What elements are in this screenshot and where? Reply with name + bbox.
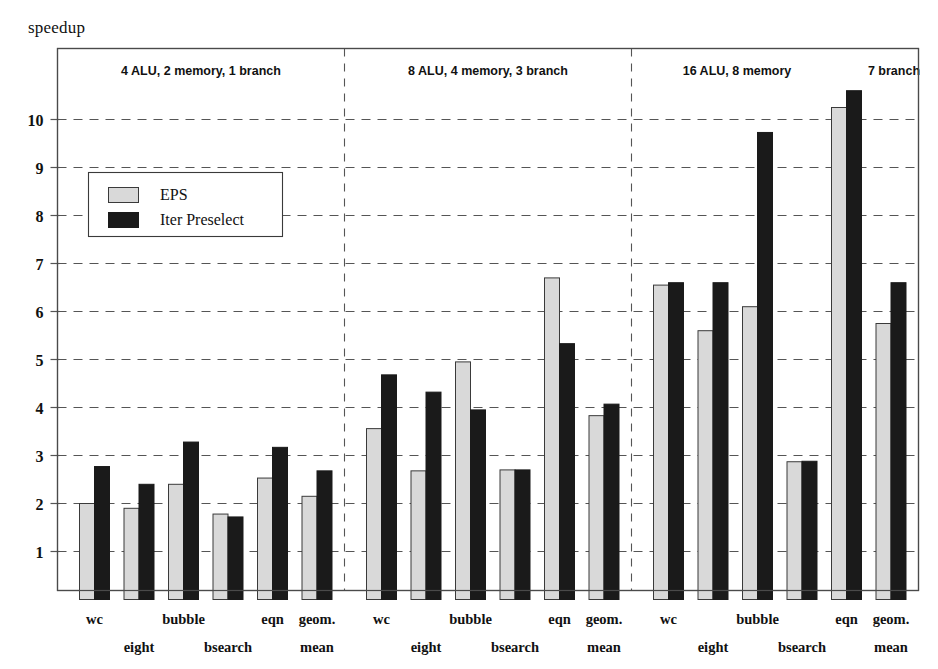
cat-label-p3-wc: wc — [660, 611, 677, 627]
y-tick-label-8: 8 — [36, 208, 44, 225]
bar-iter-p1-eight — [139, 484, 154, 599]
bar-iter-p1-eqn — [273, 447, 288, 599]
y-tick-label-10: 10 — [28, 112, 44, 129]
bar-eps-p3-eight — [698, 331, 713, 600]
legend-swatch-eps — [109, 188, 139, 203]
bar-eps-p2-bsearch — [500, 470, 515, 600]
cat-label-p2-mean: mean — [587, 639, 621, 655]
bar-iter-p1-bsearch — [228, 517, 243, 600]
bar-eps-p2-eqn — [545, 278, 560, 600]
bar-eps-p3-eqn — [832, 108, 847, 600]
bar-iter-p1-bubble — [184, 442, 199, 599]
bar-eps-p3-geommean — [876, 324, 891, 600]
bar-iter-p2-geommean — [604, 404, 619, 599]
bar-eps-p1-bsearch — [213, 514, 228, 599]
y-tick-label-7: 7 — [36, 256, 44, 273]
legend-label-iter-preselect: Iter Preselect — [160, 211, 245, 228]
bar-iter-p1-wc — [95, 467, 110, 600]
cat-label-p2-eqn: eqn — [548, 611, 571, 627]
cat-label-p1-mean: mean — [300, 639, 334, 655]
cat-label-p2-geom: geom. — [586, 611, 623, 627]
cat-label-p3-eqn: eqn — [835, 611, 858, 627]
cat-label-p3-eight: eight — [698, 639, 729, 655]
y-tick-label-1: 1 — [36, 544, 44, 561]
cat-label-p1-eqn: eqn — [261, 611, 284, 627]
bar-iter-p1-geommean — [317, 471, 332, 600]
bar-iter-p2-bsearch — [515, 470, 530, 600]
cat-label-p1-wc: wc — [86, 611, 103, 627]
x-axis-category-labels: wceightbubblebsearcheqngeom.meanwceightb… — [86, 611, 909, 655]
y-tick-label-2: 2 — [36, 496, 44, 513]
panel-label-3-part-1: 16 ALU, 8 memory — [683, 64, 792, 78]
bar-iter-p3-bsearch — [802, 461, 817, 599]
panel-label-2: 8 ALU, 4 memory, 3 branch — [408, 64, 568, 78]
cat-label-p1-eight: eight — [124, 639, 155, 655]
cat-label-p2-bsearch: bsearch — [491, 639, 539, 655]
bar-iter-p2-eqn — [560, 344, 575, 600]
bar-eps-p1-bubble — [169, 484, 184, 599]
cat-label-p3-geom: geom. — [873, 611, 910, 627]
y-tick-label-4: 4 — [36, 400, 44, 417]
bar-iter-p3-eight — [713, 283, 728, 600]
cat-label-p3-bsearch: bsearch — [778, 639, 826, 655]
bar-eps-p3-bsearch — [787, 462, 802, 600]
y-tick-label-6: 6 — [36, 304, 44, 321]
bar-iter-p3-geommean — [891, 283, 906, 600]
legend-swatch-iter-preselect — [109, 213, 139, 228]
bar-iter-p3-wc — [669, 283, 684, 600]
panel-label-3-part-2: 7 branch — [868, 64, 920, 78]
bar-iter-p2-bubble — [471, 410, 486, 600]
cat-label-p2-wc: wc — [373, 611, 390, 627]
bar-eps-p2-geommean — [589, 416, 604, 600]
cat-label-p3-bubble: bubble — [736, 611, 779, 627]
cat-label-p3-mean: mean — [874, 639, 908, 655]
cat-label-p2-bubble: bubble — [449, 611, 492, 627]
cat-label-p1-geom: geom. — [299, 611, 336, 627]
bar-eps-p1-geommean — [302, 496, 317, 599]
bar-eps-p3-wc — [654, 285, 669, 599]
legend-label-eps: EPS — [160, 186, 188, 203]
bar-iter-p3-eqn — [847, 91, 862, 600]
bar-iter-p2-wc — [382, 375, 397, 600]
bar-eps-p1-wc — [80, 504, 95, 600]
chart-canvas: 12345678910 4 ALU, 2 memory, 1 branch8 A… — [0, 0, 938, 669]
bar-series-group — [58, 49, 919, 600]
cat-label-p1-bsearch: bsearch — [204, 639, 252, 655]
speedup-bar-chart: speedup 12345678910 4 ALU, 2 memory, 1 b… — [0, 0, 938, 669]
panel-label-1: 4 ALU, 2 memory, 1 branch — [121, 64, 281, 78]
cat-label-p2-eight: eight — [411, 639, 442, 655]
bar-eps-p3-bubble — [743, 307, 758, 600]
y-tick-label-5: 5 — [36, 352, 44, 369]
legend: EPS Iter Preselect — [89, 173, 283, 237]
bar-eps-p2-bubble — [456, 362, 471, 600]
y-axis-ticks: 12345678910 — [28, 112, 60, 561]
bar-eps-p2-eight — [411, 471, 426, 600]
bar-iter-p3-bubble — [758, 132, 773, 599]
y-tick-label-9: 9 — [36, 160, 44, 177]
bar-eps-p2-wc — [367, 429, 382, 600]
y-tick-label-3: 3 — [36, 448, 44, 465]
panel-labels: 4 ALU, 2 memory, 1 branch8 ALU, 4 memory… — [121, 64, 920, 78]
bar-eps-p1-eqn — [258, 478, 273, 599]
bar-iter-p2-eight — [426, 392, 441, 599]
bar-eps-p1-eight — [124, 508, 139, 599]
cat-label-p1-bubble: bubble — [162, 611, 205, 627]
